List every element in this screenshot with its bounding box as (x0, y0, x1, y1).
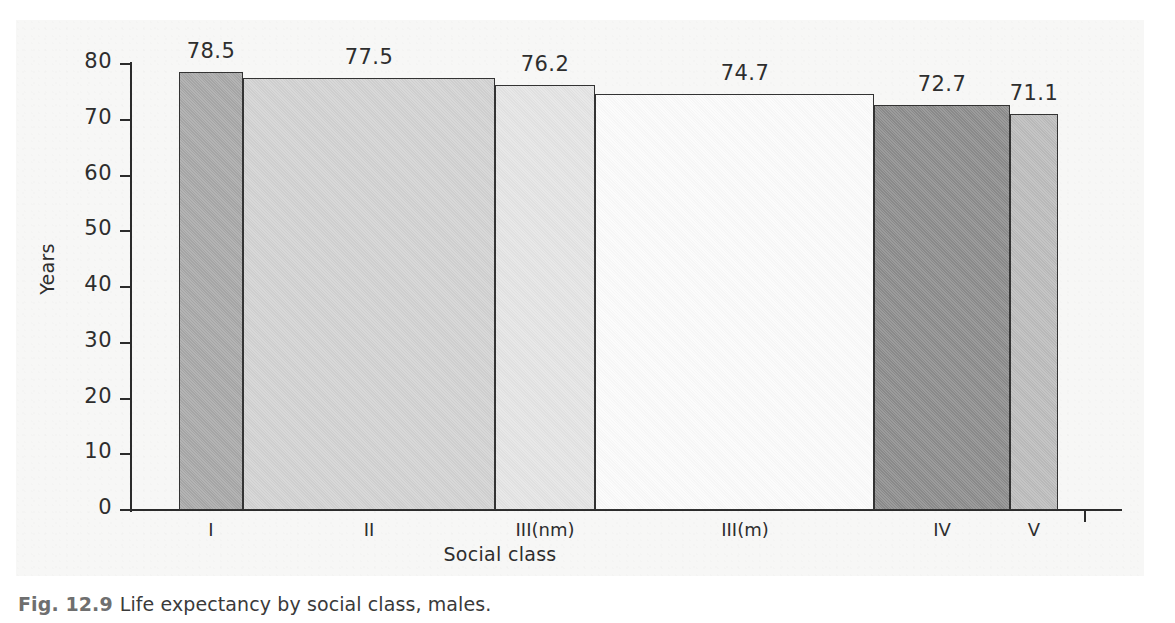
y-axis-tick-label: 20 (48, 384, 112, 408)
x-axis-category-label: III(m) (675, 519, 815, 540)
bar-iv[interactable] (874, 105, 1010, 510)
bar-v[interactable] (1010, 114, 1058, 510)
x-axis-title: Social class (400, 543, 600, 565)
y-axis-tick-label: 0 (48, 495, 112, 519)
bar-iiim[interactable] (595, 94, 874, 510)
bar-chart: 01020304050607080 Years 78.5I77.5II76.2I… (0, 0, 1175, 623)
bar-ii[interactable] (243, 78, 495, 510)
y-axis-tick-label: 60 (48, 161, 112, 185)
y-axis-tick (120, 119, 131, 121)
bar-value-label: 77.5 (309, 45, 429, 69)
y-axis-tick (120, 230, 131, 232)
bar-value-label: 78.5 (151, 39, 271, 63)
x-axis-end-tick (1084, 511, 1086, 522)
y-axis-tick (120, 398, 131, 400)
y-axis-tick (120, 63, 131, 65)
y-axis-tick-label: 80 (48, 49, 112, 73)
y-axis-tick-label: 30 (48, 328, 112, 352)
y-axis-tick (120, 453, 131, 455)
figure-number: Fig. 12.9 (18, 593, 113, 615)
x-axis-category-label: II (299, 519, 439, 540)
figure-caption-text: Life expectancy by social class, males. (120, 593, 492, 615)
y-axis-tick (120, 175, 131, 177)
bar-iiinm[interactable] (495, 85, 595, 510)
y-axis-tick (120, 509, 131, 511)
x-axis-category-label: I (141, 519, 281, 540)
y-axis-tick-label: 70 (48, 105, 112, 129)
y-axis-tick (120, 342, 131, 344)
y-axis-title: Years (36, 219, 58, 319)
y-axis-tick-label: 10 (48, 439, 112, 463)
figure-page: 01020304050607080 Years 78.5I77.5II76.2I… (0, 0, 1175, 623)
x-axis-category-label: V (964, 519, 1104, 540)
bar-value-label: 71.1 (974, 81, 1094, 105)
bar-i[interactable] (179, 72, 243, 510)
x-axis-category-label: III(nm) (475, 519, 615, 540)
bar-value-label: 74.7 (685, 61, 805, 85)
bar-value-label: 76.2 (485, 52, 605, 76)
y-axis-tick (120, 286, 131, 288)
figure-caption: Fig. 12.9Life expectancy by social class… (18, 593, 491, 615)
